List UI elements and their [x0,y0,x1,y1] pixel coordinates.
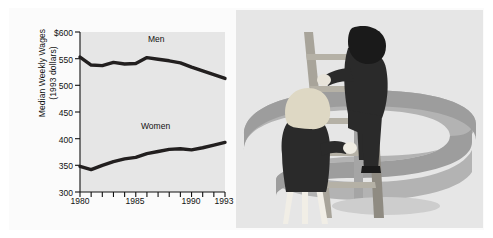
dollar-sign-ladder-illustration [236,10,483,228]
series-line-women [80,142,225,169]
ladder-shadow [332,197,440,215]
line-chart-median-weekly-wages: Median Weekly Wages (1993 dollars) $600 … [14,14,234,224]
series-line-men [80,57,225,78]
figure-wage-gap: Median Weekly Wages (1993 dollars) $600 … [0,0,493,238]
axes-and-series-svg [14,14,234,224]
x-tick-marks [80,192,225,197]
